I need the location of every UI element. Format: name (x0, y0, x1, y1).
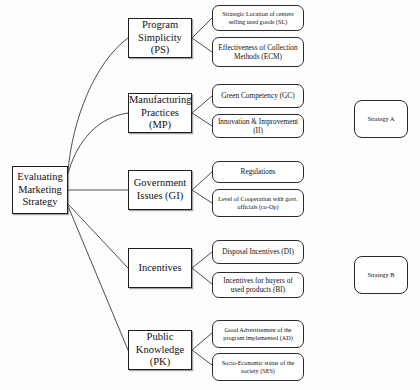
edge-incentives-to-di (192, 252, 212, 268)
subcriterion-label: Disposal Incentives (DI) (216, 247, 300, 256)
criterion-label: Public Knowledge (PK) (129, 331, 191, 369)
edge-gi-to-coop (192, 190, 212, 203)
root-node-evaluating-marketing-strategy[interactable]: Evaluating Marketing Strategy (12, 166, 68, 214)
criterion-node-incentives[interactable]: Incentives (128, 248, 192, 288)
subcriterion-node-good-advertisement[interactable]: Good Advertisement of the program implem… (212, 320, 304, 348)
criterion-node-manufacturing-practices[interactable]: Manufacturing Practices (MP) (128, 93, 192, 133)
edge-incentives-to-bi (192, 268, 212, 284)
subcriterion-node-regulations[interactable]: Regulations (212, 161, 304, 183)
criterion-label: Incentives (129, 262, 191, 275)
subcriterion-label: Green Competency (GC) (216, 91, 300, 100)
edge-root-to-program-simplicity (68, 38, 128, 172)
subcriterion-label: Regulations (216, 167, 300, 176)
subcriterion-label: Innovation & Improvement (II) (216, 117, 300, 135)
criterion-label: Manufacturing Practices (MP) (129, 94, 191, 132)
subcriterion-label: Effectiveness of Collection Methods (ECM… (216, 43, 300, 61)
subcriterion-node-level-of-cooperation[interactable]: Level of Cooperation with govt. official… (212, 189, 304, 217)
edge-mp-to-gc (192, 96, 212, 113)
subcriterion-node-incentives-for-buyers[interactable]: Incentives for buyers of used products (… (212, 272, 304, 298)
subcriterion-node-effectiveness-collection-methods[interactable]: Effectiveness of Collection Methods (ECM… (212, 37, 304, 67)
subcriterion-node-disposal-incentives[interactable]: Disposal Incentives (DI) (212, 240, 304, 264)
root-node-label: Evaluating Marketing Strategy (13, 171, 67, 208)
criterion-node-public-knowledge[interactable]: Public Knowledge (PK) (128, 330, 192, 370)
edge-ps-to-sl (192, 18, 212, 38)
subcriterion-node-green-competency[interactable]: Green Competency (GC) (212, 84, 304, 108)
subcriterion-node-socio-economic-status[interactable]: Socio-Economic status of the society (SE… (212, 353, 304, 381)
subcriterion-label: Level of Cooperation with govt. official… (216, 195, 300, 211)
edge-pk-to-ad (192, 333, 212, 350)
subcriterion-node-innovation-improvement[interactable]: Innovation & Improvement (II) (212, 114, 304, 138)
criterion-label: Program Simplicity (PS) (129, 19, 191, 57)
edge-ps-to-ecm (192, 38, 212, 52)
edge-root-to-public-knowledge (68, 206, 128, 350)
subcriterion-label: Good Advertisement of the program implem… (216, 326, 300, 342)
subcriterion-label: Socio-Economic status of the society (SE… (216, 359, 300, 375)
criterion-node-program-simplicity[interactable]: Program Simplicity (PS) (128, 18, 192, 58)
edge-root-to-incentives (68, 204, 128, 268)
alternative-label: Strategy B (355, 271, 407, 279)
criterion-node-government-issues[interactable]: Government Issues (GI) (128, 170, 192, 210)
edge-gi-to-regulations (192, 172, 212, 190)
edge-mp-to-ii (192, 113, 212, 126)
diagram-canvas: Evaluating Marketing Strategy Program Si… (0, 0, 420, 390)
edge-pk-to-ses (192, 350, 212, 365)
alternative-label: Strategy A (355, 115, 407, 123)
subcriterion-label: Incentives for buyers of used products (… (216, 276, 300, 294)
subcriterion-label: Strategic Location of centers selling us… (216, 10, 300, 26)
alternative-node-strategy-a[interactable]: Strategy A (354, 100, 408, 138)
alternative-node-strategy-b[interactable]: Strategy B (354, 256, 408, 294)
criterion-label: Government Issues (GI) (129, 177, 191, 202)
subcriterion-node-strategic-location[interactable]: Strategic Location of centers selling us… (212, 5, 304, 31)
